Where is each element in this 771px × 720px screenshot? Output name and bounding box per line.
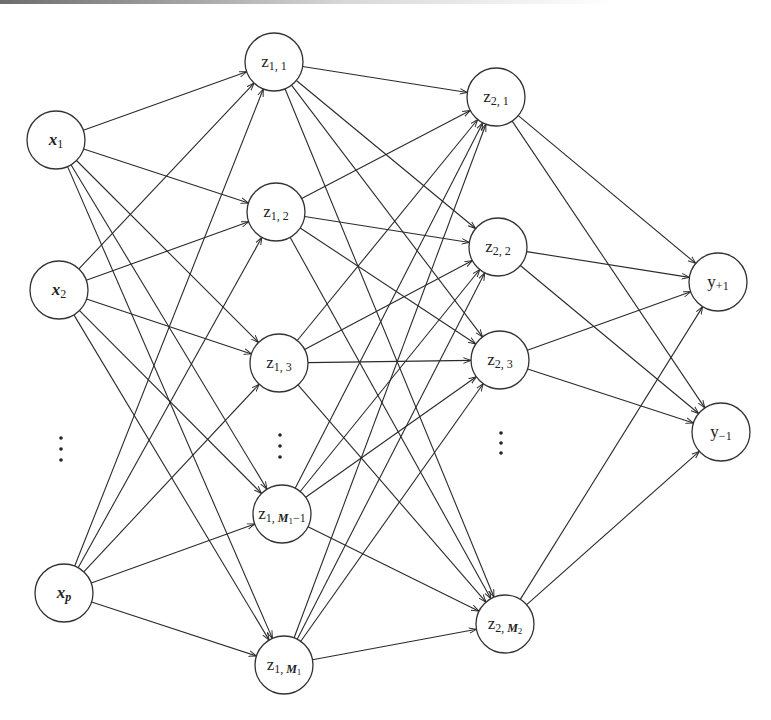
node-z1_M1m1: z1, M1−1 — [253, 485, 311, 543]
ellipsis-dot-input — [59, 436, 63, 440]
node-z1_M1: z1, M1 — [255, 636, 313, 694]
edge-z2_1-to-y_pos — [518, 116, 695, 264]
edge-z1_3-to-z2_M2 — [298, 385, 486, 602]
edge-xp-to-z1_M1 — [92, 602, 257, 656]
node-z2_2: z2, 2 — [469, 218, 527, 276]
edge-z1_3-to-z2_3 — [308, 360, 471, 362]
edge-z2_2-to-y_neg — [520, 266, 698, 414]
edge-z2_M2-to-y_pos — [520, 307, 702, 600]
edge-xp-to-z1_3 — [84, 384, 259, 572]
edge-x2-to-z1_1 — [79, 83, 254, 269]
edge-z1_M1m1-to-z2_3 — [306, 377, 477, 498]
neural-network-diagram: x1x2xpz1, 1z1, 2z1, 3z1, M1−1z1, M1z2, 1… — [0, 0, 771, 720]
ellipsis-dot-hidden-1 — [278, 455, 282, 459]
node-x2: x2 — [30, 261, 88, 319]
edge-z2_3-to-y_neg — [528, 369, 694, 423]
edge-z2_3-to-y_pos — [527, 292, 690, 350]
ellipsis-dot-input — [59, 447, 63, 451]
ellipsis-dot-hidden-1 — [278, 444, 282, 448]
node-y_neg: y−1 — [692, 403, 750, 461]
edge-z1_1-to-z2_1 — [303, 67, 468, 93]
node-z1_2: z1, 2 — [247, 183, 305, 241]
edge-z1_2-to-z2_2 — [305, 217, 470, 243]
node-z2_1: z2, 1 — [467, 68, 525, 126]
edge-z1_3-to-z2_2 — [305, 261, 473, 350]
ellipsis-dot-hidden-1 — [278, 433, 282, 437]
edge-z1_M1m1-to-z2_1 — [295, 123, 483, 488]
edge-z1_2-to-z2_M2 — [290, 237, 491, 598]
edge-z1_M1-to-z2_M2 — [313, 629, 477, 659]
edge-z1_M1-to-z2_1 — [294, 124, 486, 638]
edge-xp-to-z1_2 — [78, 237, 262, 567]
edge-z2_2-to-y_pos — [527, 252, 690, 278]
node-y_pos: y+1 — [689, 253, 747, 311]
node-z2_M2: z2, M2 — [476, 595, 534, 653]
edge-z1_2-to-z2_3 — [300, 228, 476, 344]
edges-group — [68, 67, 705, 660]
edge-z1_2-to-z2_1 — [302, 110, 471, 198]
edge-z1_M1-to-z2_2 — [297, 273, 485, 639]
ellipsis-dot-hidden-2 — [499, 441, 503, 445]
node-z1_3: z1, 3 — [250, 334, 308, 392]
node-x1: x1 — [27, 111, 85, 169]
node-z1_1: z1, 1 — [245, 33, 303, 91]
nodes-group: x1x2xpz1, 1z1, 2z1, 3z1, M1−1z1, M1z2, 1… — [27, 33, 750, 694]
edge-xp-to-z1_1 — [75, 89, 264, 566]
node-xp: xp — [35, 564, 93, 622]
node-z2_3: z2, 3 — [471, 331, 529, 389]
edge-x1-to-z1_1 — [83, 72, 246, 130]
ellipsis-dot-hidden-2 — [499, 431, 503, 435]
ellipsis-dot-input — [59, 458, 63, 462]
edge-z1_M1-to-z2_3 — [301, 384, 483, 642]
edge-z2_M2-to-y_neg — [527, 451, 700, 604]
ellipsis-dot-hidden-2 — [499, 451, 503, 455]
